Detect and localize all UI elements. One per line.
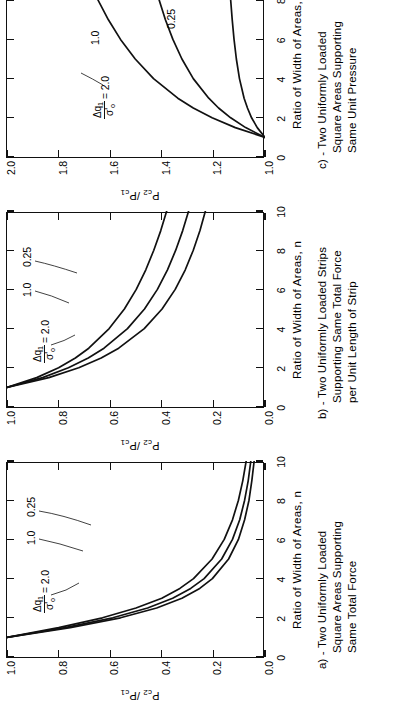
x-tick-b-5 xyxy=(7,210,14,211)
panel-a: Pc2 /Pc1 1.00.80.60.40.20.0 Δq1 σ'o = 2.… xyxy=(6,459,409,709)
x-tick-a-0 xyxy=(256,656,263,657)
panel-c-plot-block: Pc2 /Pc1 2.01.81.61.41.21.0 Δq1 σ'o = 2.… xyxy=(6,0,274,206)
x-tick-label-c-0: 0 xyxy=(275,155,287,161)
x-tick-b-1 xyxy=(256,367,263,368)
y-tick-label-b-2: 0.6 xyxy=(108,411,120,425)
annot-equals-b: = 2.0 xyxy=(39,320,51,345)
panel-b-axes: Δq1 σ'o = 2.0 1.0 0.25 xyxy=(6,212,264,408)
x-tick-c-4 xyxy=(256,0,263,1)
y-tick-b-5 xyxy=(264,400,265,407)
y-tick-label-a-3: 0.4 xyxy=(160,661,172,675)
panel-c-axes: Δq1 σ'o = 2.0 1.0 0.25 xyxy=(6,0,264,158)
panel-a-caption-line-2: Same Total Force xyxy=(345,459,360,669)
y-tick-b-4 xyxy=(213,213,214,220)
y-tick-a-1 xyxy=(58,463,59,470)
x-tick-a-4 xyxy=(7,500,14,501)
y-tick-b-0 xyxy=(6,213,7,220)
y-tick-c-3 xyxy=(161,150,162,157)
x-tick-label-b-1: 2 xyxy=(275,366,287,372)
annot-equals-a: = 2.0 xyxy=(39,570,51,595)
y-tick-label-a-5: 0.0 xyxy=(263,661,275,675)
y-tick-label-b-4: 0.2 xyxy=(211,411,223,425)
annot-denominator-c: σ'o xyxy=(105,101,116,119)
x-tick-label-b-4: 8 xyxy=(275,248,287,254)
x-tick-c-1 xyxy=(7,117,14,118)
panel-b-plot-block: Pc2 /Pc1 1.00.80.60.40.20.0 Δq1 σ'o = 2.… xyxy=(6,212,274,456)
x-tick-label-c-4: 8 xyxy=(275,0,287,4)
panel-a-plot-block: Pc2 /Pc1 1.00.80.60.40.20.0 Δq1 σ'o = 2.… xyxy=(6,462,274,706)
x-tick-b-5 xyxy=(256,210,263,211)
curve-b-2.0 xyxy=(7,211,167,387)
annot-denominator-b: σ'o xyxy=(45,345,56,363)
panel-c-caption: c) - Two Uniformly Loaded Square Areas S… xyxy=(315,0,360,169)
x-tick-a-1 xyxy=(7,617,14,618)
x-tick-b-0 xyxy=(7,406,14,407)
panel-a-axes: Δq1 σ'o = 2.0 1.0 0.25 xyxy=(6,462,264,658)
y-tick-a-4 xyxy=(213,650,214,657)
y-tick-c-4 xyxy=(213,150,214,157)
x-tick-b-3 xyxy=(256,289,263,290)
leader-line-a xyxy=(39,511,91,525)
panel-b-y-axis-title: Pc2 /Pc1 xyxy=(6,434,274,456)
panel-c-caption-line-2: Same Unit Pressure xyxy=(345,0,360,169)
y-tick-label-a-2: 0.6 xyxy=(108,661,120,675)
y-tick-label-c-2: 1.6 xyxy=(108,161,120,175)
leader-line-b xyxy=(35,291,69,303)
y-tick-label-a-1: 0.8 xyxy=(57,661,69,675)
panel-c-x-axis-title: Ratio of Width of Areas, n xyxy=(291,0,303,158)
panel-c-x-tick-labels: 0246810 xyxy=(274,0,290,158)
y-tick-label-b-5: 0.0 xyxy=(263,411,275,425)
x-tick-label-b-2: 4 xyxy=(275,327,287,333)
y-tick-b-3 xyxy=(161,400,162,407)
y-tick-b-2 xyxy=(110,400,111,407)
y-tick-label-b-3: 0.4 xyxy=(160,411,172,425)
x-tick-c-4 xyxy=(7,0,14,1)
x-tick-a-2 xyxy=(7,578,14,579)
x-tick-c-1 xyxy=(256,117,263,118)
y-tick-a-5 xyxy=(264,463,265,470)
y-tick-label-c-3: 1.4 xyxy=(160,161,172,175)
panel-b-x-axis-title: Ratio of Width of Areas, n xyxy=(291,212,303,408)
x-tick-b-4 xyxy=(256,250,263,251)
panel-b-curve-label-2: 0.25 xyxy=(21,247,33,267)
panel-a-caption-line-1: Square Areas Supporting xyxy=(330,459,345,669)
x-tick-label-a-4: 8 xyxy=(275,498,287,504)
annot-denominator-a: σ'o xyxy=(45,595,56,613)
panel-a-caption: a) - Two Uniformly Loaded Square Areas S… xyxy=(315,459,360,669)
panel-b-caption-line-2: per Unit Length of Strip xyxy=(345,209,360,419)
x-tick-b-4 xyxy=(7,250,14,251)
y-tick-a-3 xyxy=(161,463,162,470)
panel-b-y-tick-labels: 1.00.80.60.40.20.0 xyxy=(6,408,274,434)
panel-a-curve-label-1: 1.0 xyxy=(25,531,37,545)
y-tick-a-0 xyxy=(6,463,7,470)
x-tick-c-3 xyxy=(7,39,14,40)
panel-c-curve-label-1: 1.0 xyxy=(89,31,101,45)
y-tick-b-5 xyxy=(264,213,265,220)
x-tick-a-5 xyxy=(256,460,263,461)
x-tick-a-4 xyxy=(256,500,263,501)
panel-a-x-axis-title: Ratio of Width of Areas, n xyxy=(291,462,303,658)
panel-a-curve-label-2: 0.25 xyxy=(25,497,37,517)
three-panel-figure: Pc2 /Pc1 1.00.80.60.40.20.0 Δq1 σ'o = 2.… xyxy=(0,0,413,713)
y-tick-c-2 xyxy=(110,150,111,157)
y-tick-a-5 xyxy=(264,650,265,657)
y-tick-label-b-0: 1.0 xyxy=(5,411,17,425)
y-tick-label-a-4: 0.2 xyxy=(211,661,223,675)
leader-line-b xyxy=(35,261,77,273)
panel-b-ratio-annotation: Δq1 σ'o = 2.0 xyxy=(33,320,57,363)
panel-c-y-axis-title: Pc2 /Pc1 xyxy=(6,184,274,206)
panel-b-caption-line-1: Supporting Same Total Force xyxy=(330,209,345,419)
x-tick-c-0 xyxy=(256,156,263,157)
y-tick-label-b-1: 0.8 xyxy=(57,411,69,425)
y-tick-b-1 xyxy=(58,400,59,407)
x-tick-a-1 xyxy=(256,617,263,618)
x-tick-a-5 xyxy=(7,460,14,461)
panel-c-curve-label-2: 0.25 xyxy=(165,9,177,29)
panel-c-y-tick-labels: 2.01.81.61.41.21.0 xyxy=(6,158,274,184)
x-tick-label-a-3: 6 xyxy=(275,538,287,544)
figure-rotation-wrapper: Pc2 /Pc1 1.00.80.60.40.20.0 Δq1 σ'o = 2.… xyxy=(0,0,413,713)
x-tick-label-a-2: 4 xyxy=(275,577,287,583)
x-tick-label-c-3: 6 xyxy=(275,38,287,44)
y-tick-b-1 xyxy=(58,213,59,220)
x-tick-label-c-2: 4 xyxy=(275,77,287,83)
